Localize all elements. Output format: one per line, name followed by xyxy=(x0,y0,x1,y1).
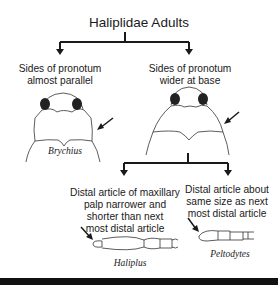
branch-connector-top xyxy=(60,32,189,50)
wider-base-eye-right xyxy=(198,93,208,105)
label-line: same size as next xyxy=(182,196,272,208)
label-peltodytes-character: Distal article about same size as next m… xyxy=(182,184,272,220)
label-line: Distal article of maxillary xyxy=(70,187,180,199)
wider-base-pronotum-drawing xyxy=(146,87,229,155)
genus-brychius: Brychius xyxy=(30,146,100,156)
label-line: most distal article xyxy=(70,223,180,235)
label-wider-base: Sides of pronotum wider at base xyxy=(135,63,245,87)
label-line: shorter than next xyxy=(70,211,180,223)
footer-bar xyxy=(0,278,278,285)
genus-haliplus: Haliplus xyxy=(100,258,160,268)
label-line: almost parallel xyxy=(5,75,115,87)
label-line: most distal article xyxy=(182,208,272,220)
haliplus-palp-drawing xyxy=(93,237,178,250)
brychius-eye-left xyxy=(40,98,50,110)
arrowhead-left xyxy=(56,49,64,55)
branch-connector-bottom xyxy=(124,153,228,171)
arrow-wider-base xyxy=(224,112,239,124)
genus-peltodytes: Peltodytes xyxy=(200,249,260,259)
label-parallel-sides: Sides of pronotum almost parallel xyxy=(5,63,115,87)
brychius-eye-right xyxy=(72,98,82,110)
label-line: Distal article about xyxy=(182,184,272,196)
peltodytes-palp-drawing xyxy=(199,231,254,241)
label-haliplus-character: Distal article of maxillary palp narrowe… xyxy=(70,187,180,235)
arrowhead-peltodytes xyxy=(224,170,232,176)
label-line: Sides of pronotum xyxy=(135,63,245,75)
arrow-brychius xyxy=(97,118,113,130)
wider-base-eye-left xyxy=(170,93,180,105)
label-line: palp narrower and xyxy=(70,199,180,211)
arrow-peltodytes xyxy=(188,218,199,232)
label-line: Sides of pronotum xyxy=(5,63,115,75)
label-line: wider at base xyxy=(135,75,245,87)
arrowhead-right xyxy=(185,49,193,55)
key-connectors xyxy=(0,0,278,289)
arrowhead-haliplus xyxy=(120,170,128,176)
